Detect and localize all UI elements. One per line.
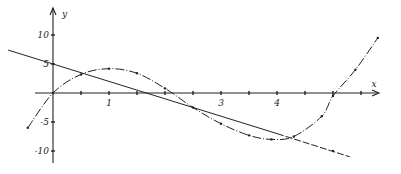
curve-point: [27, 127, 29, 129]
y-tick-label-5: 5: [43, 59, 49, 69]
data-series: [8, 37, 379, 157]
y-tick-label-10: 10: [38, 30, 50, 40]
curve-point: [108, 67, 110, 69]
straight-line-dashed: [277, 134, 350, 157]
curve-point: [377, 37, 379, 39]
curve-point: [321, 115, 323, 117]
axis-ticks: xy134105-5-10: [35, 9, 377, 156]
x-tick-label-1: 1: [106, 98, 112, 108]
curve-point: [80, 73, 82, 75]
curve-point: [164, 87, 166, 89]
y-tick-label--5: -5: [40, 117, 49, 127]
y-axis-label: y: [61, 9, 68, 19]
line-point: [332, 150, 334, 152]
curve-point: [248, 134, 250, 136]
y-tick-label--10: -10: [35, 146, 50, 156]
hand-drawn-graph: xy134105-5-10: [0, 0, 401, 174]
x-axis-label: x: [371, 79, 376, 89]
curve-point: [293, 135, 295, 137]
curve-point: [220, 123, 222, 125]
curve-point: [52, 92, 54, 94]
curve-point: [332, 95, 334, 97]
curve-point: [354, 69, 356, 71]
cubic-curve: [28, 38, 378, 140]
curve-point: [136, 72, 138, 74]
curve-point: [270, 138, 272, 140]
x-tick-label-3: 3: [218, 98, 224, 108]
axes: [35, 8, 379, 163]
x-tick-label-4: 4: [273, 98, 280, 108]
